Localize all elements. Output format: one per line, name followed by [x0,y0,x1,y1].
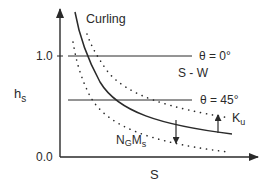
theta-45-label: θ = 45° [200,93,239,107]
curling-label: Curling [86,12,126,26]
ngms-label: NGMs [116,133,147,149]
region-label-sw: S - W [178,66,209,80]
hs-vs-s-diagram: hs S 1.0 0.0 Curling θ = 0° S - W θ = 45… [0,0,272,184]
y-tick-label-1: 1.0 [36,49,53,63]
y-tick-label-0: 0.0 [36,150,53,164]
ku-label: Ku [232,111,245,127]
curling-curve [75,12,232,134]
x-axis-label: S [150,167,159,182]
theta-0-label: θ = 0° [199,49,231,63]
y-axis-label: hs [14,86,26,104]
